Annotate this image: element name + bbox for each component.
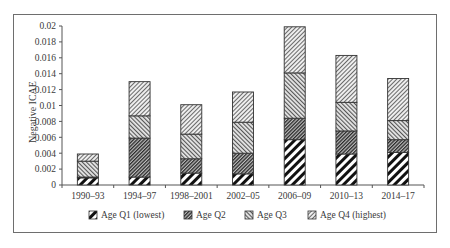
bar-segment-q2: [181, 159, 202, 173]
x-tick-label: 2014–17: [382, 191, 416, 201]
x-tick-label: 2006–09: [278, 191, 312, 201]
legend: Age Q1 (lowest)Age Q2Age Q3Age Q4 (highe…: [89, 210, 386, 221]
bar-segment-q1: [233, 174, 254, 185]
y-tick-label: 0: [51, 180, 56, 190]
bar-segment-q3: [129, 116, 150, 138]
x-tick-label: 2010–13: [330, 191, 364, 201]
bar-segment-q2: [233, 153, 254, 174]
bar-segment-q2: [336, 131, 357, 154]
y-tick-label: 0.018: [35, 37, 57, 47]
y-tick-label: 0.02: [39, 21, 56, 31]
bar-segment-q3: [336, 102, 357, 131]
bar-segment-q3: [233, 122, 254, 153]
legend-item: Age Q1 (lowest): [89, 210, 164, 221]
legend-swatch: [184, 211, 192, 219]
legend-label: Age Q1 (lowest): [101, 210, 164, 221]
bar-stack: [336, 55, 357, 185]
bar-stack: [77, 154, 98, 185]
x-tick-label: 1994–97: [123, 191, 157, 201]
bar-segment-q4: [388, 78, 409, 120]
legend-swatch: [89, 211, 97, 219]
legend-swatch: [308, 211, 316, 219]
bar-segment-q1: [129, 177, 150, 185]
y-axis: 00.0020.0040.0060.0080.010.0120.0140.016…: [35, 21, 62, 190]
bar-segment-q2: [388, 140, 409, 153]
bar-stack: [129, 82, 150, 185]
y-tick-label: 0.002: [35, 164, 57, 174]
bar-segment-q3: [388, 121, 409, 140]
bar-segment-q1: [77, 178, 98, 185]
x-tick-label: 1998–2001: [170, 191, 213, 201]
legend-label: Age Q2: [196, 210, 226, 220]
legend-item: Age Q3: [245, 210, 287, 220]
bar-segment-q4: [129, 82, 150, 116]
stacked-bar-chart: 00.0020.0040.0060.0080.010.0120.0140.016…: [0, 0, 450, 248]
legend-label: Age Q4 (highest): [320, 210, 386, 221]
bars: [77, 27, 408, 185]
x-tick-label: 2002–05: [226, 191, 260, 201]
y-tick-label: 0.016: [35, 53, 57, 63]
y-tick-label: 0.004: [35, 149, 57, 159]
bar-stack: [233, 92, 254, 185]
bar-segment-q4: [181, 105, 202, 134]
bar-segment-q3: [77, 161, 98, 177]
bar-segment-q4: [77, 154, 98, 161]
legend-swatch: [245, 211, 253, 219]
y-tick-label: 0.014: [35, 69, 57, 79]
bar-segment-q4: [336, 55, 357, 102]
bar-segment-q4: [233, 92, 254, 122]
bar-segment-q1: [181, 173, 202, 185]
bar-segment-q2: [129, 138, 150, 177]
bar-segment-q3: [181, 134, 202, 159]
legend-label: Age Q3: [257, 210, 287, 220]
bar-stack: [388, 78, 409, 185]
bar-stack: [181, 105, 202, 185]
x-tick-label: 1990–93: [71, 191, 105, 201]
x-axis: 1990–931994–971998–20012002–052006–09201…: [62, 185, 424, 201]
y-axis-title: Negative ICAE: [27, 81, 38, 143]
y-tick-label: 0.01: [39, 101, 56, 111]
bar-stack: [284, 27, 305, 185]
legend-item: Age Q4 (highest): [308, 210, 386, 221]
legend-item: Age Q2: [184, 210, 226, 220]
bar-segment-q1: [388, 152, 409, 185]
bar-segment-q2: [284, 118, 305, 139]
bar-segment-q1: [336, 154, 357, 185]
bar-segment-q4: [284, 27, 305, 73]
bar-segment-q1: [284, 140, 305, 185]
bar-segment-q3: [284, 73, 305, 118]
